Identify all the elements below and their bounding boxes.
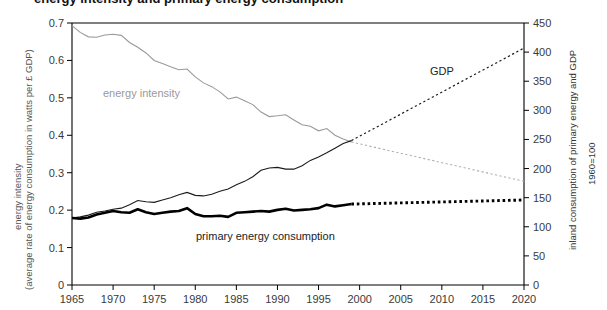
bottom-tick-label: 2015 xyxy=(471,293,495,305)
right-axis-title-main: inland consumption of primary energy and… xyxy=(567,50,578,250)
bottom-tick-label: 1995 xyxy=(306,293,330,305)
series-primary-energy-consumption xyxy=(72,204,351,219)
right-tick-label: 300 xyxy=(533,104,551,116)
left-axis-ticks: 00.10.20.30.40.50.60.7 xyxy=(49,17,72,291)
left-tick-label: 0.6 xyxy=(49,54,64,66)
left-axis-title: energy intensity (average rate of energy… xyxy=(12,49,34,290)
series-energy-intensity xyxy=(72,26,351,142)
left-tick-label: 0.3 xyxy=(49,167,64,179)
bottom-tick-label: 1980 xyxy=(183,293,207,305)
series-layer xyxy=(72,26,524,219)
chart-figure: energy intensity and primary energy cons… xyxy=(0,0,607,310)
right-axis-subtitle: 1960=100 xyxy=(586,142,597,185)
right-tick-label: 450 xyxy=(533,17,551,29)
bottom-tick-label: 1975 xyxy=(142,293,166,305)
figure-title-text: energy intensity and primary energy cons… xyxy=(34,0,343,6)
right-axis-ticks: 050100150200250300350400450 xyxy=(524,17,551,291)
bottom-tick-label: 1970 xyxy=(101,293,125,305)
bottom-tick-label: 1965 xyxy=(60,293,84,305)
bottom-tick-label: 2020 xyxy=(512,293,536,305)
left-axis-title-line1: energy intensity xyxy=(12,163,23,230)
left-tick-label: 0.2 xyxy=(49,204,64,216)
left-tick-label: 0.1 xyxy=(49,242,64,254)
right-tick-label: 50 xyxy=(533,250,545,262)
series-energy-intensity-projection xyxy=(351,142,524,181)
bottom-tick-label: 1990 xyxy=(265,293,289,305)
bottom-tick-label: 2005 xyxy=(388,293,412,305)
right-tick-label: 100 xyxy=(533,221,551,233)
chart-canvas: energy intensity (average rate of energy… xyxy=(0,0,607,310)
series-primary-energy-consumption-projection xyxy=(351,200,524,204)
left-axis-title-line2: (average rate of energy consumption in w… xyxy=(23,49,34,290)
right-tick-label: 250 xyxy=(533,133,551,145)
series-gdp xyxy=(72,141,351,218)
right-axis-title: inland consumption of primary energy and… xyxy=(567,50,597,250)
left-tick-label: 0.7 xyxy=(49,17,64,29)
series-label-energy-intensity: energy intensity xyxy=(103,87,181,99)
bottom-tick-label: 1985 xyxy=(224,293,248,305)
bottom-tick-label: 2010 xyxy=(430,293,454,305)
right-tick-label: 200 xyxy=(533,163,551,175)
figure-title-clipped: energy intensity and primary energy cons… xyxy=(0,0,607,7)
right-tick-label: 400 xyxy=(533,46,551,58)
left-tick-label: 0.4 xyxy=(49,129,64,141)
series-label-primary-energy: primary energy consumption xyxy=(196,230,335,242)
right-tick-label: 0 xyxy=(533,279,539,291)
right-tick-label: 350 xyxy=(533,75,551,87)
right-tick-label: 150 xyxy=(533,192,551,204)
left-tick-label: 0.5 xyxy=(49,92,64,104)
bottom-tick-label: 2000 xyxy=(347,293,371,305)
bottom-axis-ticks: 1965197019751980198519901995200020052010… xyxy=(60,285,536,305)
series-gdp-projection xyxy=(351,48,524,141)
left-tick-label: 0 xyxy=(58,279,64,291)
series-label-gdp: GDP xyxy=(430,65,454,77)
